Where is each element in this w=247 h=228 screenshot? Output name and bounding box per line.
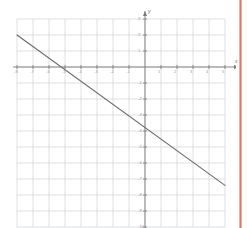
- x-axis-label: x: [235, 59, 238, 64]
- x-tick-label: -6: [46, 70, 50, 74]
- y-tick-label: -3: [138, 113, 142, 117]
- x-tick-label: -3: [94, 70, 98, 74]
- x-tick-label: 5: [222, 70, 224, 74]
- coordinate-plane-svg: [0, 0, 236, 228]
- y-tick-label: 2: [138, 33, 140, 37]
- y-axis-arrow-icon: [143, 11, 147, 16]
- graph-paper-scene: -8-7-6-5-4-3-2-112345321-1-2-3-4-5-6-7-8…: [0, 0, 247, 228]
- y-tick-label: -4: [138, 129, 142, 133]
- x-axis-arrow-icon: [234, 65, 236, 69]
- y-tick-label: -7: [138, 177, 142, 181]
- graph-paper: -8-7-6-5-4-3-2-112345321-1-2-3-4-5-6-7-8…: [0, 0, 236, 228]
- y-tick-label: 1: [138, 49, 140, 53]
- x-tick-label: -1: [126, 70, 130, 74]
- y-axis-label: y: [148, 9, 151, 14]
- x-tick-label: 1: [158, 70, 160, 74]
- x-tick-label: 3: [190, 70, 192, 74]
- x-tick-label: -4: [78, 70, 82, 74]
- y-tick-label: -8: [138, 193, 142, 197]
- page-edge-stripe: [239, 0, 242, 228]
- x-tick-label: -2: [110, 70, 114, 74]
- x-tick-label: 2: [174, 70, 176, 74]
- page-edge-outer: [242, 0, 247, 228]
- x-tick-label: -7: [30, 70, 34, 74]
- y-tick-label: -9: [138, 209, 142, 213]
- y-tick-label: -1: [138, 81, 142, 85]
- x-tick-label: 4: [206, 70, 208, 74]
- y-tick-label: 3: [138, 17, 140, 21]
- y-tick-label: -10: [138, 225, 144, 228]
- y-tick-label: -6: [138, 161, 142, 165]
- y-tick-label: -5: [138, 145, 142, 149]
- x-tick-label: -8: [14, 70, 18, 74]
- x-tick-label: -5: [62, 70, 66, 74]
- y-tick-label: -2: [138, 97, 142, 101]
